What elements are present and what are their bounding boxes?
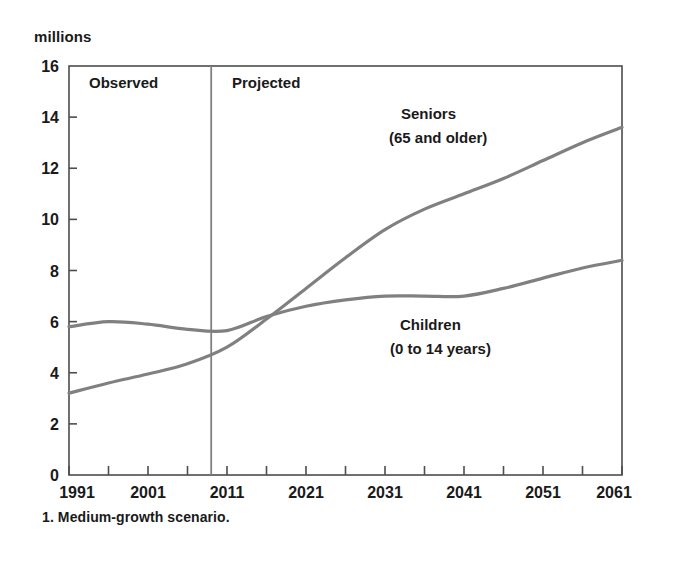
y-tick-label-14: 14 <box>41 109 59 126</box>
x-axis-tick-labels: 19912001201120212031204120512061 <box>59 484 632 501</box>
y-axis-ticks <box>69 117 77 424</box>
series-label-children-line1: Children <box>400 316 461 333</box>
x-tick-label-2041: 2041 <box>446 484 482 501</box>
y-tick-label-0: 0 <box>50 467 59 484</box>
region-label-observed: Observed <box>89 74 158 91</box>
series-label-children-line2: (0 to 14 years) <box>390 340 491 357</box>
chart-plot-area: 0246810121416 19912001201120212031204120… <box>0 0 685 572</box>
x-tick-label-1991: 1991 <box>59 484 95 501</box>
series-line-children <box>69 260 622 331</box>
x-tick-label-2011: 2011 <box>210 484 245 501</box>
population-projection-chart: millions 0246810121416 19912001201120212… <box>0 0 685 572</box>
y-tick-label-2: 2 <box>50 416 59 433</box>
series-line-seniors <box>69 127 622 393</box>
y-tick-label-8: 8 <box>50 263 59 280</box>
series-label-seniors-line1: Seniors <box>401 105 456 122</box>
y-tick-label-16: 16 <box>41 58 59 75</box>
x-tick-label-2051: 2051 <box>525 484 561 501</box>
x-tick-label-2001: 2001 <box>130 484 166 501</box>
plot-frame <box>69 66 622 475</box>
x-axis-ticks <box>69 466 622 475</box>
series-label-seniors-line2: (65 and older) <box>389 129 487 146</box>
x-tick-label-2021: 2021 <box>288 484 324 501</box>
x-tick-label-2061: 2061 <box>596 484 632 501</box>
x-tick-label-2031: 2031 <box>367 484 403 501</box>
y-tick-label-12: 12 <box>41 160 59 177</box>
y-tick-label-4: 4 <box>50 365 59 382</box>
y-tick-label-10: 10 <box>41 211 59 228</box>
region-label-projected: Projected <box>232 74 300 91</box>
y-tick-label-6: 6 <box>50 314 59 331</box>
chart-footnote: 1. Medium-growth scenario. <box>42 509 230 525</box>
y-axis-tick-labels: 0246810121416 <box>41 58 59 484</box>
